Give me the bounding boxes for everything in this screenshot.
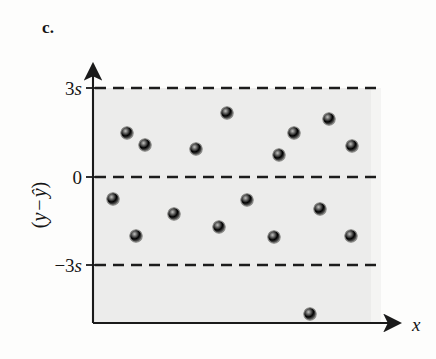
data-point: [121, 127, 133, 139]
residual-scatter-plot: 3s 0 −3s x (y−ŷ): [0, 0, 436, 359]
y-tick-label-neg3s: −3s: [54, 255, 82, 276]
data-point: [268, 231, 280, 243]
residual-plot-figure: c. 3s: [0, 0, 436, 359]
data-point: [241, 194, 253, 206]
data-point: [139, 139, 151, 151]
data-point: [314, 203, 326, 215]
data-point: [190, 143, 202, 155]
data-point: [346, 140, 358, 152]
shaded-plot-region: [93, 88, 379, 323]
x-axis-label: x: [411, 314, 421, 335]
y-tick-label-3s: 3s: [65, 78, 82, 99]
band-edge-fade: [371, 88, 381, 323]
data-point: [168, 208, 180, 220]
data-point: [213, 221, 225, 233]
data-point: [130, 230, 142, 242]
y-axis-label: (y−ŷ): [28, 182, 51, 228]
y-tick-label-0: 0: [73, 167, 83, 188]
data-point: [345, 230, 357, 242]
data-point: [323, 113, 335, 125]
svg-text:(y−ŷ): (y−ŷ): [28, 182, 51, 228]
data-point: [273, 149, 285, 161]
data-point: [288, 127, 300, 139]
data-point: [221, 107, 233, 119]
data-point: [107, 193, 119, 205]
data-point-outlier: [304, 308, 316, 320]
